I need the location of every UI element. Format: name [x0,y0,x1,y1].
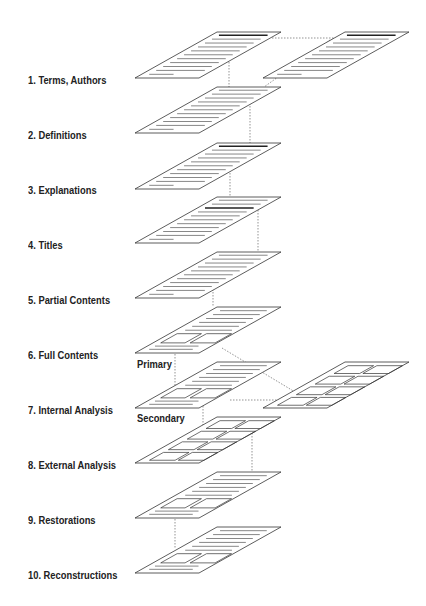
level-label-6: 6. Full Contents [28,349,98,361]
level-label-10: 10. Reconstructions [28,569,117,581]
level-label-1: 1. Terms, Authors [28,74,106,86]
primary-label: Primary [137,358,172,370]
level-label-5: 5. Partial Contents [28,294,110,306]
level-label-9: 9. Restorations [28,514,96,526]
level-label-8: 8. External Analysis [28,459,116,471]
level-label-7: 7. Internal Analysis [28,404,113,416]
level-label-3: 3. Explanations [28,184,97,196]
secondary-label: Secondary [137,412,185,424]
level-label-2: 2. Definitions [28,129,87,141]
level-label-4: 4. Titles [28,239,63,251]
